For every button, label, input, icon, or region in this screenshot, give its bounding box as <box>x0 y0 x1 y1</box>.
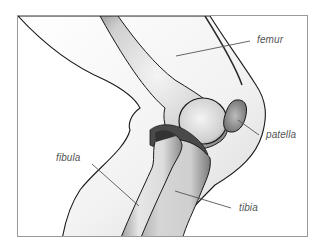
label-patella: patella <box>266 129 296 140</box>
label-femur: femur <box>257 34 283 45</box>
label-fibula: fibula <box>56 152 81 163</box>
label-tibia: tibia <box>239 202 258 213</box>
